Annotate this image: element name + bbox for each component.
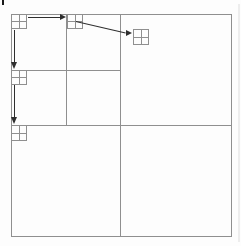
arrow-root-to-ne-subquad-shaft — [28, 17, 60, 18]
arrow-root-to-ne-subquad-head — [60, 14, 66, 20]
arrow-sw-subquad-to-quad-head — [11, 117, 17, 124]
arrow-root-to-sw-subquad-shaft — [14, 30, 15, 63]
subquad-horizontal-divider — [11, 70, 120, 71]
figure-crop-mark — [2, 0, 4, 5]
node-grid-sw-subquadrant — [11, 70, 27, 85]
quadtree-diagram-canvas — [0, 0, 241, 246]
arrow-ne-subquad-to-quad-head — [126, 30, 132, 36]
node-grid-sw-quadrant — [11, 125, 27, 141]
node-grid-ne-quadrant — [133, 29, 149, 45]
node-grid-root — [11, 14, 27, 29]
page-edge-shade — [238, 4, 240, 242]
main-horizontal-divider — [11, 125, 232, 126]
arrow-sw-subquad-to-quad-shaft — [14, 85, 15, 118]
arrow-root-to-sw-subquad-head — [11, 62, 17, 69]
